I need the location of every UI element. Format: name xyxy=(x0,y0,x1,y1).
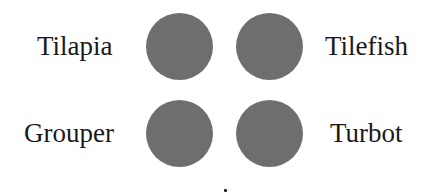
circle-turbot xyxy=(236,100,303,167)
circle-tilapia xyxy=(146,13,213,80)
circle-grouper xyxy=(146,100,213,167)
label-tilefish: Tilefish xyxy=(325,33,408,60)
small-mark xyxy=(224,189,227,192)
label-turbot: Turbot xyxy=(330,120,403,147)
label-grouper: Grouper xyxy=(24,120,114,147)
label-tilapia: Tilapia xyxy=(37,33,113,60)
circle-tilefish xyxy=(236,13,303,80)
